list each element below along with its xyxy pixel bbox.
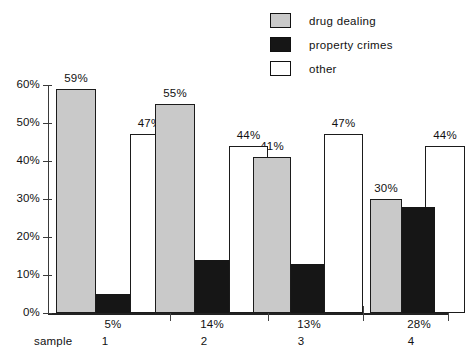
bar-value-label: 59%	[54, 72, 98, 84]
y-axis-label-holder: 0%	[0, 306, 40, 320]
x-axis-tick	[363, 306, 364, 321]
bar	[155, 104, 195, 313]
bar-value-label: 14%	[194, 318, 230, 330]
y-axis-label-holder: 20%	[0, 230, 40, 244]
group-label: 3	[279, 335, 323, 347]
group-label: 1	[83, 335, 127, 347]
y-axis-tick-label: 40%	[4, 154, 40, 166]
bar	[370, 199, 402, 313]
group-label: 2	[182, 335, 226, 347]
bar-value-label: 5%	[95, 318, 131, 330]
bar	[324, 134, 363, 313]
y-axis-label-holder: 10%	[0, 268, 40, 282]
bar	[195, 260, 229, 313]
y-axis-tick	[43, 237, 52, 238]
bar	[402, 207, 435, 313]
bar-value-label: 13%	[291, 318, 327, 330]
y-axis-tick	[43, 199, 52, 200]
bar-value-label: 44%	[423, 129, 466, 141]
y-axis-tick	[43, 123, 52, 124]
y-axis-label-holder: 50%	[0, 116, 40, 130]
bar-value-label: 44%	[227, 129, 271, 141]
y-axis-tick	[43, 275, 52, 276]
bar	[253, 157, 291, 313]
bar	[56, 89, 96, 313]
y-axis-tick-label: 20%	[4, 230, 40, 242]
bar-value-label: 28%	[401, 318, 437, 330]
bar	[291, 264, 324, 313]
y-axis-tick	[43, 313, 52, 314]
y-axis-label-holder: 40%	[0, 154, 40, 168]
bar	[96, 294, 130, 313]
bar-value-label: 47%	[322, 117, 366, 129]
y-axis-tick-label: 0%	[4, 306, 40, 318]
y-axis-tick-label: 60%	[4, 78, 40, 90]
y-axis-label-holder: 60%	[0, 78, 40, 92]
plot-area: 0%10%20%30%40%50%60% 59%5%47%55%14%44%41…	[0, 0, 466, 357]
y-axis-tick	[43, 85, 52, 86]
bar-chart: drug dealing property crimes other 0%10%…	[0, 0, 466, 357]
group-label: 4	[389, 335, 433, 347]
bar-value-label: 30%	[364, 182, 408, 194]
y-axis-tick-label: 50%	[4, 116, 40, 128]
y-axis-label-holder: 30%	[0, 192, 40, 206]
y-axis-tick-label: 10%	[4, 268, 40, 280]
bar-value-label: 55%	[153, 87, 197, 99]
x-axis-line	[48, 313, 448, 315]
y-axis-tick-label: 30%	[4, 192, 40, 204]
y-axis-tick	[43, 161, 52, 162]
x-axis-title: sample	[34, 335, 72, 347]
